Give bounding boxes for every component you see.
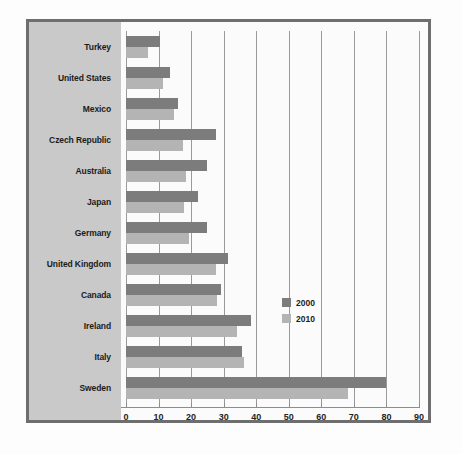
x-tick-label-70: 70 [344, 412, 364, 422]
bar-group [126, 253, 419, 275]
category-label: Ireland [29, 321, 117, 331]
category-label: Australia [29, 166, 117, 176]
category-label: United Kingdom [29, 259, 117, 269]
x-tick-mark-40 [256, 403, 257, 408]
bar-group [126, 36, 419, 58]
bar-2000 [126, 253, 228, 264]
bar-2000 [126, 160, 207, 171]
x-tick-label-0: 0 [116, 412, 136, 422]
bar-group [126, 67, 419, 89]
legend-swatch-2010-icon [282, 314, 291, 323]
x-tick-mark-70 [354, 403, 355, 408]
bar-2010 [126, 78, 163, 89]
x-tick-mark-20 [191, 403, 192, 408]
x-tick-mark-80 [386, 403, 387, 408]
x-tick-mark-60 [321, 403, 322, 408]
bar-group [126, 377, 419, 399]
bar-2000 [126, 67, 170, 78]
bar-2010 [126, 171, 186, 182]
x-tick-label-20: 20 [181, 412, 201, 422]
plot-background [121, 22, 428, 420]
bar-group [126, 284, 419, 306]
x-tick-label-30: 30 [214, 412, 234, 422]
category-label: Canada [29, 290, 117, 300]
x-tick-label-40: 40 [246, 412, 266, 422]
legend-label-2000: 2000 [296, 298, 315, 308]
x-tick-mark-50 [289, 403, 290, 408]
legend-item-2000: 2000 [282, 296, 344, 309]
chart-legend: 2000 2010 [282, 296, 344, 328]
chart-page: 2000 2010 TurkeyUnited StatesMexicoCzech… [0, 0, 463, 454]
bar-2010 [126, 264, 216, 275]
legend-item-2010: 2010 [282, 312, 344, 325]
bar-2010 [126, 233, 189, 244]
x-tick-label-50: 50 [279, 412, 299, 422]
legend-swatch-2000-icon [282, 298, 291, 307]
bar-2010 [126, 202, 184, 213]
x-tick-mark-10 [159, 403, 160, 408]
bar-group [126, 346, 419, 368]
bar-group [126, 191, 419, 213]
bar-group [126, 315, 419, 337]
bar-2010 [126, 140, 183, 151]
x-tick-label-60: 60 [311, 412, 331, 422]
legend-label-2010: 2010 [296, 314, 315, 324]
category-label: Japan [29, 197, 117, 207]
category-label: Sweden [29, 383, 117, 393]
chart-frame: 2000 2010 TurkeyUnited StatesMexicoCzech… [26, 19, 431, 423]
bar-2000 [126, 129, 216, 140]
bar-2000 [126, 36, 160, 47]
category-label: Turkey [29, 42, 117, 52]
category-label: Italy [29, 352, 117, 362]
bar-2010 [126, 47, 148, 58]
category-label: Germany [29, 228, 117, 238]
bar-2010 [126, 357, 244, 368]
bar-2000 [126, 191, 198, 202]
x-tick-label-90: 90 [409, 412, 429, 422]
bar-group [126, 160, 419, 182]
x-tick-mark-30 [224, 403, 225, 408]
x-tick-mark-90 [419, 403, 420, 408]
bar-2000 [126, 284, 221, 295]
bar-2000 [126, 222, 207, 233]
bar-group [126, 129, 419, 151]
category-label: United States [29, 73, 117, 83]
bar-2000 [126, 346, 242, 357]
x-tick-label-10: 10 [149, 412, 169, 422]
gridline-90 [419, 31, 420, 403]
x-axis-line [121, 407, 420, 408]
bar-group [126, 98, 419, 120]
x-tick-mark-0 [126, 403, 127, 408]
bar-2010 [126, 388, 348, 399]
bar-group [126, 222, 419, 244]
x-tick-label-80: 80 [376, 412, 396, 422]
category-label: Mexico [29, 104, 117, 114]
bar-2010 [126, 109, 174, 120]
bar-2010 [126, 295, 217, 306]
bar-2000 [126, 377, 386, 388]
plot-area [126, 31, 419, 403]
bar-2000 [126, 315, 251, 326]
bar-2010 [126, 326, 237, 337]
bar-2000 [126, 98, 178, 109]
category-label: Czech Republic [29, 135, 117, 145]
